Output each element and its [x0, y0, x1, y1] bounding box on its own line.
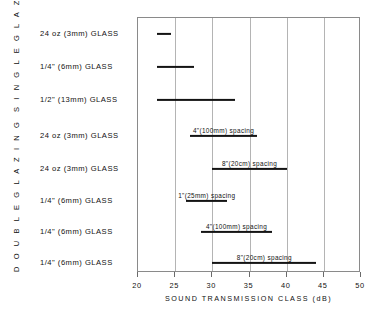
bar-note-row-7: 4"(100mm) spacing [206, 223, 267, 230]
gridline-40 [287, 18, 288, 271]
row-label-6: 1/4" (6mm) GLASS [40, 196, 132, 205]
gridline-45 [324, 18, 325, 271]
x-tick-40 [286, 272, 287, 277]
x-tick-label-25: 25 [169, 281, 178, 290]
x-tick-label-45: 45 [318, 281, 327, 290]
bar-row-8 [212, 262, 316, 264]
x-tick-label-20: 20 [132, 281, 141, 290]
bar-row-3 [157, 99, 235, 101]
x-tick-label-50: 50 [355, 281, 364, 290]
row-label-2: 1/4" (6mm) GLASS [40, 62, 132, 71]
stc-glazing-chart: S I N G L E G L A Z I N G D O U B L E G … [0, 0, 373, 311]
bar-row-1 [157, 33, 172, 35]
x-tick-45 [323, 272, 324, 277]
plot-area: 4"(100mm) spacing8"(20cm) spacing1"(25mm… [137, 17, 360, 272]
x-axis-title: SOUND TRANSMISSION CLASS (dB) [137, 294, 360, 303]
bar-row-2 [157, 66, 194, 68]
x-tick-label-30: 30 [207, 281, 216, 290]
gridline-25 [175, 18, 176, 271]
x-axis-tick-labels: 20253035404550 [137, 281, 360, 291]
group-label-double-glazing: D O U B L E G L A Z I N G [12, 120, 21, 272]
x-tick-35 [249, 272, 250, 277]
row-label-7: 1/4" (6mm) GLASS [40, 227, 132, 236]
bar-note-row-5: 8"(20cm) spacing [222, 160, 277, 167]
bar-row-4 [190, 135, 257, 137]
x-tick-20 [137, 272, 138, 277]
bar-row-5 [212, 168, 286, 170]
bar-row-6 [186, 200, 227, 202]
row-label-3: 1/2" (13mm) GLASS [40, 95, 132, 104]
x-tick-50 [360, 272, 361, 277]
row-label-8: 1/4" (6mm) GLASS [40, 258, 132, 267]
x-axis-ticks [137, 272, 360, 280]
bar-note-row-6: 1"(25mm) spacing [178, 192, 235, 199]
bar-note-row-4: 4"(100mm) spacing [193, 127, 254, 134]
bar-row-7 [201, 231, 272, 233]
x-tick-label-35: 35 [244, 281, 253, 290]
bar-note-row-8: 8"(20cm) spacing [237, 254, 292, 261]
row-label-4: 24 oz (3mm) GLASS [40, 131, 132, 140]
x-tick-25 [174, 272, 175, 277]
x-tick-label-40: 40 [281, 281, 290, 290]
x-tick-30 [211, 272, 212, 277]
row-label-5: 24 oz (3mm) GLASS [40, 164, 132, 173]
group-label-single-glazing: S I N G L E G L A Z I N G [12, 0, 21, 112]
row-label-1: 24 oz (3mm) GLASS [40, 29, 132, 38]
